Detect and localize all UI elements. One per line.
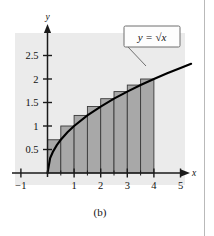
figure-container: −112345 0.511.522.5 x y y = √x (b) xyxy=(0,0,214,236)
y-tick-label: 2.5 xyxy=(25,50,38,61)
x-tick-label: 2 xyxy=(98,180,103,191)
x-tick-label: 3 xyxy=(125,180,130,191)
y-tick-label: 0.5 xyxy=(25,144,38,155)
x-tick-label: 4 xyxy=(151,180,157,191)
figure-caption: (b) xyxy=(0,206,200,218)
riemann-bar xyxy=(87,107,100,173)
y-tick-label: 2 xyxy=(33,74,38,85)
x-axis-label: x xyxy=(191,168,197,178)
equation-callout-text: y = √x xyxy=(137,31,167,43)
riemann-bar xyxy=(101,99,114,173)
riemann-sum-chart: −112345 0.511.522.5 x y y = √x xyxy=(0,0,214,236)
riemann-bar xyxy=(141,79,154,173)
y-tick-label: 1.5 xyxy=(25,97,38,108)
x-tick-label: −1 xyxy=(15,180,26,191)
equation-callout: y = √x xyxy=(124,26,180,47)
page-divider-rule xyxy=(204,0,205,236)
riemann-bar xyxy=(114,92,127,173)
riemann-bar xyxy=(127,85,140,173)
x-tick-label: 1 xyxy=(71,180,76,191)
y-axis-label: y xyxy=(44,12,50,22)
y-tick-label: 1 xyxy=(33,121,38,132)
x-tick-label: 5 xyxy=(178,180,183,191)
riemann-bar xyxy=(48,140,61,173)
